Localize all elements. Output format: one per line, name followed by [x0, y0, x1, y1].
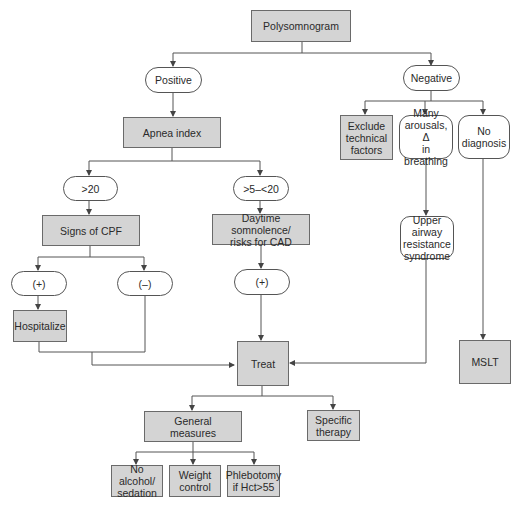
positive-label: Positive — [155, 74, 192, 86]
negative-label: Negative — [411, 72, 452, 84]
phlebotomy-label: Phlebotomy if Hct>55 — [226, 469, 281, 493]
weight-control-label: Weight control — [179, 469, 212, 493]
daytime-somnolence-node: Daytime somnolence/ risks for CAD — [212, 214, 310, 245]
flowchart: Polysomnogram Positive Negative Apnea in… — [0, 0, 532, 509]
general-measures-label: General measures — [170, 415, 216, 439]
upper-airway-resistance-node: Upper airway resistance syndrome — [400, 216, 454, 259]
gt5-lt20-node: >5–<20 — [233, 176, 289, 201]
daytime-positive-node: (+) — [234, 269, 290, 295]
hospitalize-label: Hospitalize — [14, 320, 65, 332]
daytime-somnolence-label: Daytime somnolence/ risks for CAD — [213, 212, 309, 248]
positive-node: Positive — [145, 67, 202, 93]
apnea-index-label: Apnea index — [143, 127, 201, 139]
many-arousals-label: Many arousals, Δ in breathing — [400, 107, 452, 167]
phlebotomy-node: Phlebotomy if Hct>55 — [227, 465, 280, 497]
cpf-positive-node: (+) — [11, 271, 67, 296]
cpf-negative-label: (–) — [139, 278, 152, 290]
cpf-negative-node: (–) — [117, 271, 173, 296]
gt20-label: >20 — [82, 183, 100, 195]
signs-of-cpf-node: Signs of CPF — [42, 215, 140, 246]
no-alcohol-node: No alcohol/ sedation — [111, 465, 163, 497]
apnea-index-node: Apnea index — [123, 117, 221, 148]
no-alcohol-label: No alcohol/ sedation — [112, 463, 162, 499]
negative-node: Negative — [403, 65, 460, 91]
mslt-node: MSLT — [459, 340, 511, 384]
cpf-positive-label: (+) — [32, 278, 45, 290]
exclude-technical-factors-label: Exclude technical factors — [346, 120, 387, 156]
signs-of-cpf-label: Signs of CPF — [60, 225, 122, 237]
no-diagnosis-node: No diagnosis — [458, 115, 510, 159]
polysomnogram-node: Polysomnogram — [251, 10, 351, 42]
treat-node: Treat — [237, 341, 289, 386]
specific-therapy-label: Specific therapy — [315, 414, 352, 438]
mslt-label: MSLT — [471, 356, 498, 368]
hospitalize-node: Hospitalize — [13, 310, 67, 342]
polysomnogram-label: Polysomnogram — [263, 20, 339, 32]
exclude-technical-factors-node: Exclude technical factors — [340, 115, 393, 160]
many-arousals-node: Many arousals, Δ in breathing — [399, 115, 453, 159]
specific-therapy-node: Specific therapy — [307, 410, 360, 441]
general-measures-node: General measures — [144, 411, 242, 442]
no-diagnosis-label: No diagnosis — [462, 125, 506, 149]
treat-label: Treat — [251, 358, 275, 370]
gt5-lt20-label: >5–<20 — [243, 183, 279, 195]
daytime-positive-label: (+) — [255, 276, 268, 288]
upper-airway-resistance-label: Upper airway resistance syndrome — [403, 214, 451, 262]
gt20-node: >20 — [63, 176, 118, 201]
weight-control-node: Weight control — [169, 465, 221, 497]
